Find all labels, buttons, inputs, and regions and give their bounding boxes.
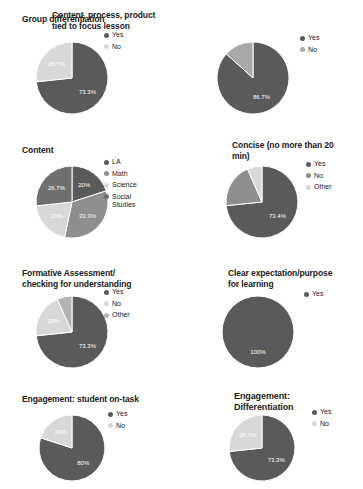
pie-slice-label: 26.7% bbox=[239, 432, 257, 438]
pie-slice-label: 73.3% bbox=[268, 457, 286, 463]
legend-item[interactable]: No bbox=[312, 420, 331, 429]
chart-cell-engagement-differentiation: Engagement: Differentiation73.3%26.7%Yes… bbox=[0, 0, 363, 489]
legend-swatch-icon bbox=[312, 421, 317, 426]
legend-swatch-icon bbox=[312, 410, 317, 415]
pie-engagement-differentiation: 73.3%26.7% bbox=[227, 413, 297, 483]
pie-chart-grid: Group differentiation73.3%26.7%YesNoCont… bbox=[0, 0, 363, 489]
chart-title-engagement-differentiation: Engagement: Differentiation bbox=[234, 391, 294, 412]
legend-engagement-differentiation: YesNo bbox=[312, 408, 331, 428]
legend-label: No bbox=[320, 420, 329, 429]
legend-item[interactable]: Yes bbox=[312, 408, 331, 417]
legend-label: Yes bbox=[320, 408, 331, 417]
